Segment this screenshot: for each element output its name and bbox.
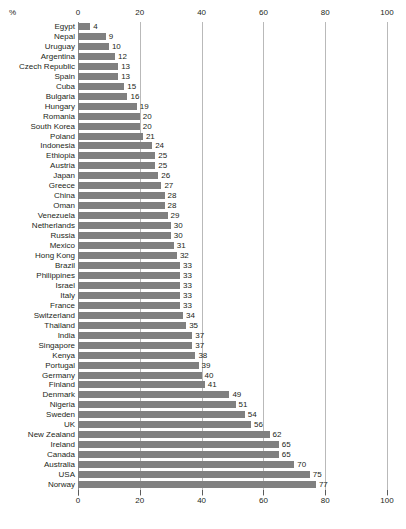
bar	[78, 302, 180, 309]
bar-row: Spain13	[0, 72, 406, 82]
bar-value-label: 15	[127, 82, 136, 91]
bar	[78, 461, 294, 468]
bar-row: Portugal39	[0, 361, 406, 371]
bar-value-label: 65	[282, 440, 291, 449]
bar-value-label: 30	[174, 221, 183, 230]
bar-category-label: UK	[0, 420, 75, 429]
bar	[78, 212, 168, 219]
x-axis-tick-label: 20	[135, 496, 144, 505]
bar-category-label: Japan	[0, 171, 75, 180]
bar	[78, 362, 199, 369]
bar-value-label: 37	[195, 331, 204, 340]
bar	[78, 83, 124, 90]
bar-row: Canada65	[0, 450, 406, 460]
bar-value-label: 41	[208, 380, 217, 389]
bar-row: Brazil33	[0, 261, 406, 271]
bar-value-label: 13	[121, 72, 130, 81]
x-axis-tick-label: 0	[76, 496, 80, 505]
bar-row: Norway77	[0, 480, 406, 490]
bar-value-label: 10	[112, 42, 121, 51]
bar-category-label: Cuba	[0, 82, 75, 91]
bar-value-label: 31	[177, 241, 186, 250]
bar-value-label: 34	[186, 311, 195, 320]
bar-category-label: Russia	[0, 231, 75, 240]
bar-category-label: Hungary	[0, 102, 75, 111]
bar	[78, 352, 195, 359]
bar-row: China28	[0, 191, 406, 201]
bar-category-label: Kenya	[0, 351, 75, 360]
bar-row: Hong Kong32	[0, 251, 406, 261]
bar-category-label: Ireland	[0, 440, 75, 449]
bar	[78, 451, 279, 458]
bar-row: Finland41	[0, 380, 406, 390]
bar-category-label: Venezuela	[0, 211, 75, 220]
bar	[78, 242, 174, 249]
bar-value-label: 33	[183, 271, 192, 280]
bar-row: Thailand35	[0, 321, 406, 331]
x-axis-tick-mark	[78, 490, 79, 495]
bar-category-label: Ethiopia	[0, 151, 75, 160]
bar-row: Ireland65	[0, 440, 406, 450]
bar-category-label: Spain	[0, 72, 75, 81]
bar-value-label: 4	[93, 22, 97, 31]
bar-category-label: Uruguay	[0, 42, 75, 51]
bar-category-label: Greece	[0, 181, 75, 190]
bar	[78, 202, 165, 209]
bar-row: Singapore37	[0, 341, 406, 351]
x-axis-tick-label: 60	[259, 8, 268, 17]
bar-value-label: 35	[189, 321, 198, 330]
bar-category-label: Germany	[0, 371, 75, 380]
bar-row: Ethiopia25	[0, 151, 406, 161]
bar-value-label: 77	[319, 480, 328, 489]
bar-row: Uruguay10	[0, 42, 406, 52]
bar-row: Russia30	[0, 231, 406, 241]
bar-category-label: USA	[0, 470, 75, 479]
bar-row: Australia70	[0, 460, 406, 470]
bar	[78, 431, 270, 438]
bar	[78, 93, 127, 100]
bar-category-label: Indonesia	[0, 141, 75, 150]
bar	[78, 312, 183, 319]
bar	[78, 23, 90, 30]
bar	[78, 401, 236, 408]
bar-row: UK56	[0, 420, 406, 430]
bar	[78, 441, 279, 448]
bar-row: Denmark49	[0, 390, 406, 400]
bar	[78, 232, 171, 239]
bar-category-label: Thailand	[0, 321, 75, 330]
bar-category-label: Sweden	[0, 410, 75, 419]
bar-row: Israel33	[0, 281, 406, 291]
bar-category-label: Philippines	[0, 271, 75, 280]
bar-row: Japan26	[0, 171, 406, 181]
bar-category-label: Italy	[0, 291, 75, 300]
bar-value-label: 54	[248, 410, 257, 419]
bar	[78, 222, 171, 229]
bar-row: Nigeria51	[0, 400, 406, 410]
bar-row: India37	[0, 331, 406, 341]
bar	[78, 172, 158, 179]
x-axis-tick-mark	[140, 490, 141, 495]
bar-row: USA75	[0, 470, 406, 480]
x-axis-tick-label: 100	[380, 8, 393, 17]
x-axis-tick-label: 0	[76, 8, 80, 17]
bar	[78, 133, 143, 140]
bar-value-label: 37	[195, 341, 204, 350]
bar-value-label: 75	[313, 470, 322, 479]
x-axis-tick-label: 40	[197, 8, 206, 17]
bar-value-label: 39	[202, 361, 211, 370]
bar-chart: % 020406080100 Egypt4Nepal9Uruguay10Arge…	[0, 0, 406, 529]
x-axis-tick-label: 40	[197, 496, 206, 505]
bar-value-label: 32	[180, 251, 189, 260]
bar-value-label: 28	[168, 201, 177, 210]
bar-value-label: 51	[239, 400, 248, 409]
bar-category-label: Oman	[0, 201, 75, 210]
bar	[78, 142, 152, 149]
bar-value-label: 21	[146, 132, 155, 141]
x-axis-tick-label: 20	[135, 8, 144, 17]
bar	[78, 421, 251, 428]
bar-value-label: 65	[282, 450, 291, 459]
bar-value-label: 28	[168, 191, 177, 200]
bar	[78, 292, 180, 299]
bar-category-label: France	[0, 301, 75, 310]
bar	[78, 252, 177, 259]
